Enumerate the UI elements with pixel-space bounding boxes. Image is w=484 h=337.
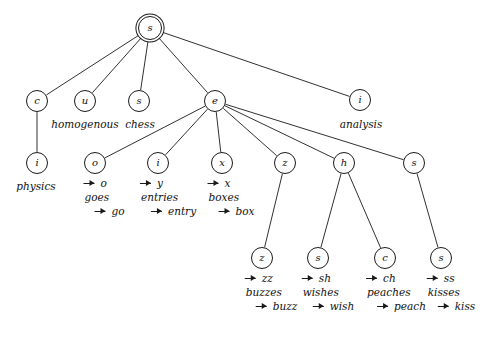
rule-line: peach <box>366 301 426 312</box>
tree-edge-e-to-o <box>105 106 205 157</box>
arrow-right-icon <box>366 275 379 283</box>
tree-node-s_kiss[interactable]: s <box>430 247 452 269</box>
rule-text: o <box>100 178 106 189</box>
arrow-right-icon <box>94 208 107 216</box>
tree-edge-root-to-s2 <box>141 40 148 89</box>
word-label-chess: chess <box>125 118 155 130</box>
tree-node-label: z <box>282 158 287 168</box>
arrow-right-icon <box>151 208 164 216</box>
tree-node-c_peach[interactable]: c <box>374 247 396 269</box>
rule-text: wish <box>330 301 355 312</box>
rule-line: box <box>208 206 255 217</box>
arrow-right-icon <box>140 180 153 188</box>
rule-line: boxes <box>208 192 240 203</box>
tree-node-label: u <box>82 96 88 106</box>
rule-text: kisses <box>428 287 460 298</box>
rule-line: entry <box>140 206 196 217</box>
tree-node-u[interactable]: u <box>74 90 96 112</box>
tree-edge-e-to-z <box>224 109 277 156</box>
tree-node-z_buzz[interactable]: z <box>251 247 273 269</box>
tree-node-label: s <box>147 23 152 33</box>
tree-node-c[interactable]: c <box>26 90 48 112</box>
arrow-right-icon <box>219 208 232 216</box>
tree-node-label: x <box>219 158 225 168</box>
tree-node-x[interactable]: x <box>211 152 233 174</box>
tree-edge-e-to-h <box>225 106 333 158</box>
tree-edge-root-to-u <box>93 37 142 92</box>
rule-text: wishes <box>303 287 339 298</box>
rule-text: kiss <box>455 301 476 312</box>
tree-edge-root-to-c <box>47 35 140 95</box>
tree-node-i_top[interactable]: i <box>349 89 371 111</box>
tree-node-label: s <box>411 158 416 168</box>
rule-text: entry <box>168 206 196 217</box>
rule-line: buzz <box>245 301 298 312</box>
diagram-canvas: scuseiioixzhszscs homogenouschessanalysi… <box>0 0 484 337</box>
tree-edge-h-to-c_peach <box>349 174 381 248</box>
tree-node-h[interactable]: h <box>333 152 355 174</box>
tree-node-s_right[interactable]: s <box>403 152 425 174</box>
tree-node-e[interactable]: e <box>204 90 226 112</box>
rule-wishes: shwisheswish <box>302 273 355 312</box>
word-label-analysis: analysis <box>340 118 383 130</box>
word-label-homogenous: homogenous <box>51 118 119 130</box>
rule-text: peaches <box>367 287 410 298</box>
arrow-right-icon <box>245 275 258 283</box>
rule-line: buzzes <box>245 287 282 298</box>
rule-text: go <box>111 206 124 217</box>
rule-line: zz <box>245 273 273 284</box>
rule-line: y <box>140 178 163 189</box>
word-label-physics: physics <box>16 180 55 192</box>
rule-line: kiss <box>427 301 476 312</box>
rule-line: sh <box>302 273 331 284</box>
tree-edge-s_right-to-s_kiss <box>417 174 438 247</box>
rule-line: ch <box>366 273 396 284</box>
tree-node-label: h <box>341 158 347 168</box>
rule-line: kisses <box>427 287 460 298</box>
tree-node-root[interactable]: s <box>138 16 162 40</box>
rule-line: wishes <box>302 287 339 298</box>
rule-text: goes <box>84 192 109 203</box>
tree-node-o[interactable]: o <box>84 152 106 174</box>
rule-line: o <box>83 178 106 189</box>
tree-node-label: o <box>92 158 98 168</box>
arrow-right-icon <box>256 303 269 311</box>
tree-node-label: i <box>358 95 361 105</box>
rule-line: peaches <box>366 287 410 298</box>
tree-node-label: s <box>315 253 320 263</box>
tree-edge-root-to-i_top <box>162 32 349 96</box>
arrow-right-icon <box>313 303 326 311</box>
tree-node-label: e <box>212 96 218 106</box>
arrow-right-icon <box>83 180 96 188</box>
tree-node-label: z <box>259 253 264 263</box>
tree-node-s_wish[interactable]: s <box>307 247 329 269</box>
rule-text: zz <box>262 273 273 284</box>
rule-entries: yentriesentry <box>140 178 196 217</box>
rule-line: entries <box>140 192 178 203</box>
rule-text: ss <box>444 273 455 284</box>
rule-text: buzz <box>273 301 298 312</box>
tree-node-i_physics[interactable]: i <box>26 152 48 174</box>
rule-buzzes: zzbuzzesbuzz <box>245 273 298 312</box>
rule-text: buzzes <box>246 287 282 298</box>
rule-text: y <box>157 178 163 189</box>
rule-line: x <box>208 178 231 189</box>
tree-node-label: c <box>382 253 388 263</box>
rule-text: x <box>225 178 231 189</box>
rule-goes: ogoesgo <box>83 178 124 217</box>
rule-kisses: sskisseskiss <box>427 273 476 312</box>
rule-line: wish <box>302 301 355 312</box>
tree-node-i_entries[interactable]: i <box>147 152 169 174</box>
rule-text: peach <box>394 301 426 312</box>
tree-node-label: i <box>35 158 38 168</box>
tree-node-label: i <box>156 158 159 168</box>
rule-text: entries <box>141 192 178 203</box>
tree-node-s2[interactable]: s <box>128 90 150 112</box>
rule-text: boxes <box>209 192 240 203</box>
rule-line: goes <box>83 192 109 203</box>
rule-peaches: chpeachespeach <box>366 273 426 312</box>
arrow-right-icon <box>427 275 440 283</box>
rule-boxes: xboxesbox <box>208 178 255 217</box>
rule-line: ss <box>427 273 455 284</box>
tree-node-z[interactable]: z <box>274 152 296 174</box>
